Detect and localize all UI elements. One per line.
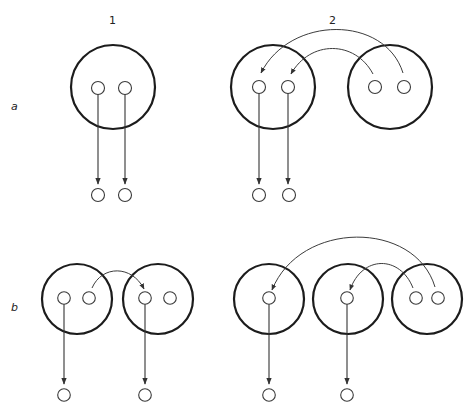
output-circle: [263, 389, 276, 402]
row-label-b: b: [11, 301, 18, 314]
output-circle: [58, 389, 71, 402]
small-circle: [253, 81, 266, 94]
output-circle: [119, 189, 132, 202]
small-circle: [398, 81, 411, 94]
panel-a1: [71, 45, 155, 202]
column-label-2: 2: [329, 14, 336, 27]
transfer-arrow-inner: [291, 49, 373, 75]
output-circle: [253, 189, 266, 202]
large-circle: [71, 45, 155, 129]
small-circle: [432, 292, 445, 305]
small-circle: [139, 292, 152, 305]
small-circle: [58, 292, 71, 305]
panel-b2: [234, 237, 462, 401]
small-circle: [164, 292, 177, 305]
panel-a2: [231, 30, 432, 202]
output-circle: [139, 389, 152, 402]
large-circle-left: [42, 264, 112, 334]
small-circle: [263, 292, 276, 305]
small-circle: [410, 292, 423, 305]
large-circle-right: [392, 264, 462, 334]
large-circle-right: [123, 264, 193, 334]
transfer-arrow-outer: [261, 30, 403, 74]
output-circle: [341, 389, 354, 402]
output-circle: [92, 189, 105, 202]
small-circle: [92, 82, 105, 95]
small-circle: [83, 292, 96, 305]
small-circle: [341, 292, 354, 305]
large-circle-right: [348, 45, 432, 129]
row-label-a: a: [11, 100, 18, 113]
large-circle-left: [231, 45, 315, 129]
small-circle: [119, 82, 132, 95]
diagram-canvas: 1 2 a b: [0, 0, 473, 413]
output-circle: [283, 189, 296, 202]
column-label-1: 1: [109, 14, 116, 27]
panel-b1: [42, 264, 193, 401]
small-circle: [282, 81, 295, 94]
small-circle: [369, 81, 382, 94]
